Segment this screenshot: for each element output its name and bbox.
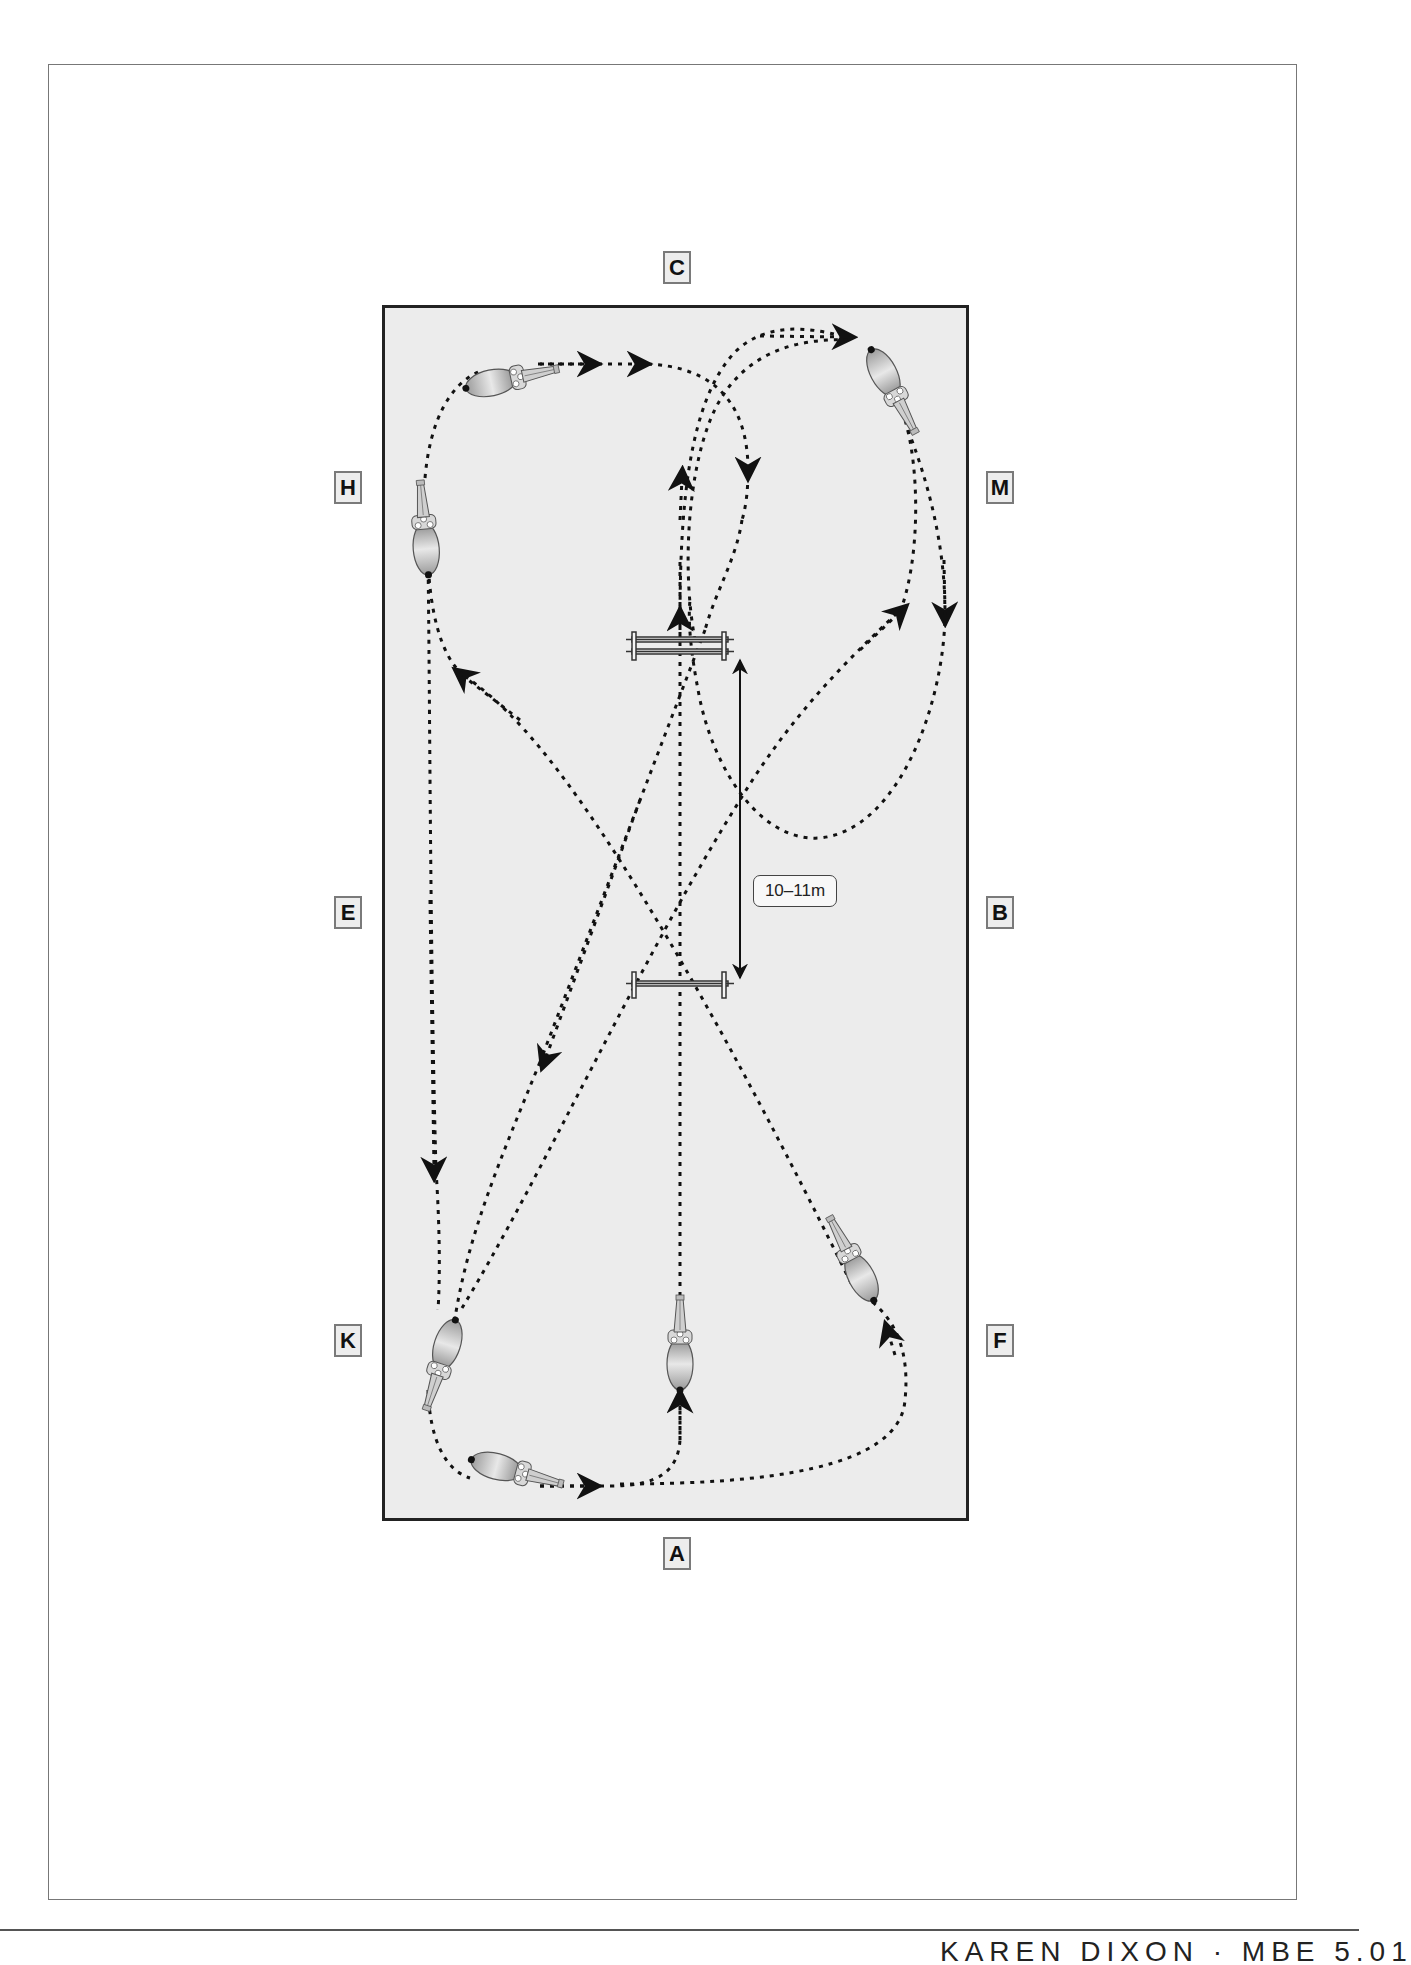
- marker-a: A: [663, 1537, 691, 1570]
- marker-c: C: [663, 251, 691, 284]
- marker-m: M: [986, 471, 1014, 504]
- marker-h: H: [334, 471, 362, 504]
- marker-b: B: [986, 896, 1014, 929]
- marker-e: E: [334, 896, 362, 929]
- footer-divider: [0, 1929, 1359, 1931]
- footer-credit: KAREN DIXON · MBE 5.01: [940, 1936, 1411, 1965]
- marker-k: K: [334, 1324, 362, 1357]
- distance-label: 10–11m: [753, 875, 837, 907]
- marker-f: F: [986, 1324, 1014, 1357]
